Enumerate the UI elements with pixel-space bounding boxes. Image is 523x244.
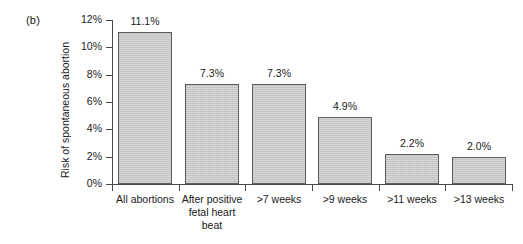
- x-axis-tick-mark: [245, 185, 246, 191]
- y-axis-tick-label: 6%: [56, 95, 102, 107]
- bar-value-label: 11.1%: [115, 15, 175, 27]
- y-axis-tick-mark: [106, 75, 112, 76]
- bar: [185, 84, 239, 184]
- x-axis-category-label: >7 weeks: [241, 193, 317, 206]
- bar-value-label: 7.3%: [249, 67, 309, 79]
- bar-value-label: 2.0%: [449, 140, 509, 152]
- x-axis-tick-mark: [379, 185, 380, 191]
- y-axis-tick-label: 12%: [56, 13, 102, 25]
- bar: [318, 117, 372, 184]
- bar: [118, 32, 172, 184]
- y-axis-tick-label: 8%: [56, 68, 102, 80]
- y-axis-line: [112, 20, 113, 185]
- x-axis-tick-mark: [312, 185, 313, 191]
- bar: [452, 157, 506, 184]
- x-axis-tick-mark: [445, 185, 446, 191]
- y-axis-tick-label: 10%: [56, 40, 102, 52]
- y-axis-tick-label: 2%: [56, 150, 102, 162]
- y-axis-tick-label: 0%: [56, 177, 102, 189]
- y-axis-tick-mark: [106, 47, 112, 48]
- x-axis-category-label: >9 weeks: [307, 193, 383, 206]
- x-axis-category-label: All abortions: [107, 193, 183, 206]
- y-axis-tick-mark: [106, 157, 112, 158]
- x-axis-category-label: After positive fetal heart beat: [174, 193, 250, 232]
- y-axis-tick-mark: [106, 129, 112, 130]
- bar: [385, 154, 439, 184]
- bar-value-label: 2.2%: [382, 137, 442, 149]
- figure-panel-b: (b) Risk of spontaneous abortion 0%2%4%6…: [0, 0, 523, 244]
- x-axis-category-label: >11 weeks: [374, 193, 450, 206]
- y-axis-tick-mark: [106, 20, 112, 21]
- x-axis-category-label: >13 weeks: [441, 193, 517, 206]
- x-axis-tick-mark: [179, 185, 180, 191]
- y-axis-tick-mark: [106, 102, 112, 103]
- y-axis-tick-label: 4%: [56, 122, 102, 134]
- bar-value-label: 4.9%: [315, 100, 375, 112]
- x-axis-tick-mark: [112, 185, 113, 191]
- panel-label: (b): [26, 14, 40, 26]
- x-axis-tick-mark: [512, 185, 513, 191]
- bar: [252, 84, 306, 184]
- bar-value-label: 7.3%: [182, 67, 242, 79]
